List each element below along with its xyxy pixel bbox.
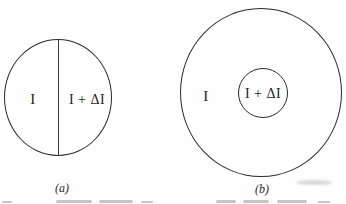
scan-artifact-smudge [296, 180, 332, 185]
caption-remnant-mark [141, 201, 153, 203]
caption-remnant-mark [277, 200, 307, 203]
intensity-increment-label-inner-circle: I + ΔI [239, 86, 287, 102]
intensity-increment-label-right-half: I + ΔI [63, 92, 111, 108]
caption-remnant-mark [216, 200, 236, 203]
panel-b-caption: (b) [246, 182, 278, 197]
panel-a-caption: (a) [46, 181, 78, 196]
intensity-label-left-half: I [24, 91, 42, 107]
caption-remnant-mark [2, 201, 12, 203]
intensity-label-outer-region: I [197, 88, 215, 104]
caption-remnant-mark [56, 200, 92, 203]
caption-remnant-mark [99, 200, 133, 203]
caption-remnant-mark [243, 200, 269, 203]
split-circle-divider-line [58, 40, 59, 155]
caption-remnant-mark [318, 201, 330, 203]
figure-canvas: I I + ΔI (a) I I + ΔI (b) [0, 0, 346, 204]
